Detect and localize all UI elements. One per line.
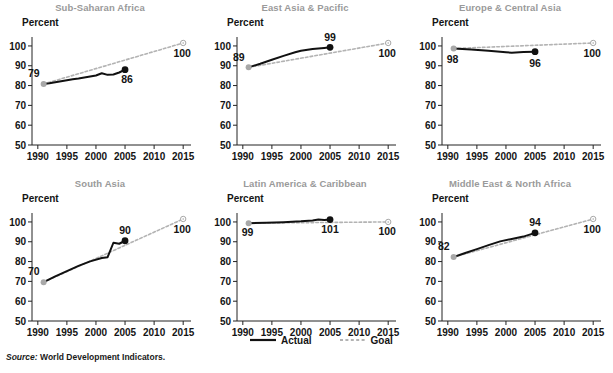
data-value-label: 100 <box>378 225 396 237</box>
y-tick-label: 50 <box>425 316 437 327</box>
actual-line <box>454 49 535 53</box>
y-tick-label: 90 <box>15 60 27 71</box>
data-value-label: 100 <box>173 47 191 59</box>
x-tick-label: 1995 <box>56 327 79 338</box>
x-tick-label: 2010 <box>348 151 371 162</box>
plot-area: 5060708090100199019952000200520102015829… <box>410 176 610 348</box>
y-tick-label: 80 <box>15 80 27 91</box>
start-point-marker <box>451 46 457 52</box>
legend-label-goal: Goal <box>371 335 393 346</box>
actual-endpoint-marker <box>327 216 334 223</box>
y-tick-label: 70 <box>15 100 27 111</box>
actual-endpoint-marker <box>532 229 539 236</box>
goal-endpoint-dot <box>387 42 389 44</box>
data-value-label: 99 <box>242 226 254 238</box>
actual-endpoint-marker <box>122 237 129 244</box>
plot-area: 5060708090100199019952000200520102015989… <box>410 0 610 172</box>
x-tick-label: 1990 <box>232 151 255 162</box>
actual-line <box>44 241 125 282</box>
goal-line <box>44 43 184 84</box>
y-tick-label: 80 <box>15 256 27 267</box>
goal-endpoint-dot <box>182 42 184 44</box>
x-tick-label: 2005 <box>114 151 137 162</box>
y-tick-label: 60 <box>220 296 232 307</box>
y-tick-label: 90 <box>15 236 27 247</box>
y-tick-label: 60 <box>15 296 27 307</box>
y-tick-label: 80 <box>220 80 232 91</box>
source-note: Source: World Development Indicators. <box>6 352 165 362</box>
y-tick-label: 90 <box>425 236 437 247</box>
x-tick-label: 1990 <box>27 327 50 338</box>
legend-swatch-actual-icon <box>250 335 276 345</box>
y-tick-label: 60 <box>425 296 437 307</box>
x-tick-label: 2000 <box>495 327 518 338</box>
chart-panel: Latin America & Caribbean Percent 506070… <box>205 176 405 348</box>
data-value-label: 100 <box>583 223 601 235</box>
x-tick-label: 2005 <box>319 151 342 162</box>
y-tick-label: 50 <box>15 140 27 151</box>
y-tick-label: 50 <box>220 140 232 151</box>
start-point-marker <box>41 279 47 285</box>
data-value-label: 89 <box>233 51 245 63</box>
y-tick-label: 70 <box>425 100 437 111</box>
y-tick-label: 50 <box>425 140 437 151</box>
x-tick-label: 2015 <box>582 151 605 162</box>
plot-area: 5060708090100199019952000200520102015991… <box>205 176 405 348</box>
data-value-label: 86 <box>121 73 133 85</box>
y-tick-label: 90 <box>220 236 232 247</box>
y-tick-label: 100 <box>419 217 436 228</box>
x-tick-label: 2015 <box>377 151 400 162</box>
x-tick-label: 2000 <box>495 151 518 162</box>
legend-swatch-goal-icon <box>340 335 366 345</box>
y-tick-label: 60 <box>425 120 437 131</box>
goal-line <box>454 219 594 257</box>
data-value-label: 99 <box>324 31 336 43</box>
x-tick-label: 1995 <box>261 151 284 162</box>
y-tick-label: 70 <box>15 276 27 287</box>
x-tick-label: 2015 <box>172 327 195 338</box>
x-tick-label: 2010 <box>143 327 166 338</box>
chart-legend: Actual Goal <box>250 331 450 349</box>
goal-endpoint-dot <box>182 218 184 220</box>
x-tick-label: 1995 <box>56 151 79 162</box>
data-value-label: 100 <box>583 47 601 59</box>
y-tick-label: 50 <box>220 316 232 327</box>
data-value-label: 79 <box>28 67 40 79</box>
legend-entry-goal: Goal <box>340 335 393 346</box>
plot-area: 5060708090100199019952000200520102015899… <box>205 0 405 172</box>
x-tick-label: 1995 <box>466 327 489 338</box>
chart-panel: South Asia Percent 506070809010019901995… <box>0 176 200 348</box>
x-tick-label: 1995 <box>466 151 489 162</box>
data-value-label: 100 <box>378 47 396 59</box>
x-tick-label: 1990 <box>437 151 460 162</box>
goal-line <box>249 43 389 67</box>
y-tick-label: 70 <box>220 100 232 111</box>
plot-area: 5060708090100199019952000200520102015798… <box>0 0 200 172</box>
data-value-label: 70 <box>28 265 40 277</box>
goal-line <box>454 43 594 49</box>
goal-endpoint-dot <box>592 42 594 44</box>
y-tick-label: 70 <box>220 276 232 287</box>
actual-line <box>249 47 330 67</box>
y-tick-label: 50 <box>15 316 27 327</box>
x-tick-label: 2015 <box>582 327 605 338</box>
data-value-label: 94 <box>529 216 541 228</box>
x-tick-label: 2000 <box>85 151 108 162</box>
y-tick-label: 60 <box>220 120 232 131</box>
data-value-label: 101 <box>321 223 339 235</box>
y-tick-label: 100 <box>419 41 436 52</box>
x-tick-label: 2000 <box>85 327 108 338</box>
chart-figure: Sub-Saharan Africa Percent 5060708090100… <box>0 0 613 373</box>
y-tick-label: 90 <box>425 60 437 71</box>
legend-label-actual: Actual <box>281 335 312 346</box>
chart-panel: Middle East & North Africa Percent 50607… <box>410 176 610 348</box>
x-tick-label: 2005 <box>524 151 547 162</box>
x-tick-label: 2010 <box>143 151 166 162</box>
y-tick-label: 80 <box>425 80 437 91</box>
start-point-marker <box>246 64 252 70</box>
data-value-label: 90 <box>119 224 131 236</box>
x-tick-label: 1990 <box>27 151 50 162</box>
legend-entry-actual: Actual <box>250 335 312 346</box>
x-tick-label: 2005 <box>114 327 137 338</box>
start-point-marker <box>41 81 47 87</box>
